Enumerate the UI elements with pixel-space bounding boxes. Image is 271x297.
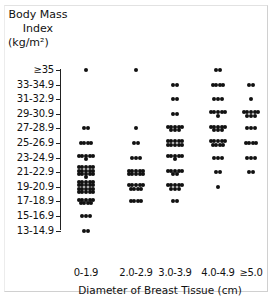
- y-tick-label: 15-16.9: [2, 211, 54, 221]
- x-tick-label: 0-1.9: [63, 267, 109, 278]
- data-point: [136, 141, 140, 145]
- data-point: [220, 128, 224, 132]
- y-tick-label: 23-24.9: [2, 153, 54, 163]
- data-point: [216, 185, 220, 189]
- y-title-line-1: Body Mass: [6, 8, 70, 22]
- data-point: [251, 170, 255, 174]
- y-tick-label: 27-28.9: [2, 123, 54, 133]
- y-tick-label: 31-32.9: [2, 94, 54, 104]
- x-tick-label: 3.0-3.9: [152, 267, 198, 278]
- data-point: [180, 125, 184, 129]
- data-point: [216, 114, 220, 118]
- data-point: [84, 68, 88, 72]
- y-tick-mark: [56, 143, 61, 144]
- y-tick-label: 17-18.9: [2, 196, 54, 206]
- data-point: [253, 156, 257, 160]
- data-point: [138, 156, 142, 160]
- y-tick-mark: [56, 231, 61, 232]
- y-axis-title: Body Mass Index (kg/m²): [6, 8, 70, 50]
- y-tick-label: 21-22.9: [2, 167, 54, 177]
- y-tick-label: 13-14.9: [2, 226, 54, 236]
- data-point: [220, 156, 224, 160]
- y-axis-line: [60, 69, 61, 230]
- y-tick-label: 25-26.9: [2, 138, 54, 148]
- data-point: [175, 172, 179, 176]
- data-point: [220, 97, 224, 101]
- data-point: [88, 214, 92, 218]
- data-point: [177, 187, 181, 191]
- y-title-line-2: Index: [6, 22, 70, 36]
- y-tick-mark: [56, 70, 61, 71]
- data-point: [253, 114, 257, 118]
- y-tick-mark: [56, 201, 61, 202]
- y-tick-label: ≥35: [2, 65, 54, 75]
- y-tick-label: 33-34.9: [2, 80, 54, 90]
- data-point: [175, 97, 179, 101]
- data-point: [134, 68, 138, 72]
- data-point: [218, 170, 222, 174]
- data-point: [86, 229, 90, 233]
- data-point: [251, 83, 255, 87]
- y-tick-mark: [56, 216, 61, 217]
- y-tick-mark: [56, 158, 61, 159]
- data-point: [175, 83, 179, 87]
- y-title-line-3: (kg/m²): [6, 36, 70, 50]
- y-tick-mark: [56, 187, 61, 188]
- y-tick-mark: [56, 114, 61, 115]
- x-tick-label: ≥5.0: [228, 267, 271, 278]
- y-tick-mark: [56, 128, 61, 129]
- data-point: [180, 143, 184, 147]
- data-point: [180, 169, 184, 173]
- y-tick-mark: [56, 99, 61, 100]
- data-point: [139, 187, 143, 191]
- y-tick-mark: [56, 172, 61, 173]
- y-tick-label: 19-20.9: [2, 182, 54, 192]
- data-point: [218, 68, 222, 72]
- data-point: [175, 112, 179, 116]
- y-tick-label: 29-30.9: [2, 109, 54, 119]
- data-point: [177, 128, 181, 132]
- y-tick-mark: [56, 85, 61, 86]
- x-axis-title: Diameter of Breast Tissue (cm): [60, 284, 260, 296]
- data-point: [223, 125, 227, 129]
